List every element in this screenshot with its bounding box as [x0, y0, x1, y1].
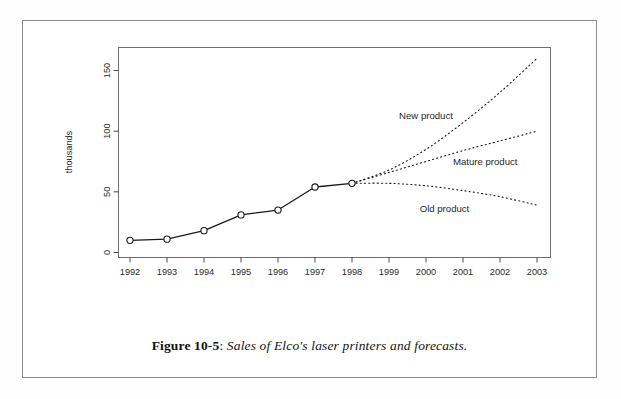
y-axis-tick-labels: 050100150: [102, 63, 112, 255]
x-tick-label: 2000: [416, 267, 436, 277]
x-tick-label: 2001: [453, 267, 473, 277]
x-tick-label: 1994: [194, 267, 214, 277]
data-point-marker: [275, 207, 281, 213]
x-axis-ticks: [130, 258, 537, 263]
y-axis-title: thousands: [64, 130, 74, 173]
data-point-marker: [238, 212, 244, 218]
figure-caption-number: Figure 10-5: [152, 338, 220, 353]
x-axis-tick-labels: 1992199319941995199619971998199920002001…: [120, 267, 547, 277]
data-series-layer: [130, 58, 537, 240]
annotation-new-product: New product: [399, 110, 453, 121]
figure-caption-separator: :: [219, 338, 223, 353]
x-tick-label: 1999: [379, 267, 399, 277]
data-point-marker: [201, 228, 207, 234]
x-tick-label: 1998: [342, 267, 362, 277]
data-point-marker: [164, 236, 170, 242]
x-tick-label: 1995: [231, 267, 251, 277]
annotation-mature-product: Mature product: [453, 156, 518, 167]
figure-caption-text: Sales of Elco's laser printers and forec…: [227, 338, 468, 353]
data-point-markers: [127, 180, 355, 243]
scanned-page: 050100150 199219931994199519961997199819…: [0, 0, 621, 399]
y-tick-label: 50: [102, 187, 112, 197]
annotation-old-product: Old product: [420, 203, 470, 214]
y-tick-label: 0: [102, 250, 112, 255]
data-point-marker: [127, 237, 133, 243]
x-tick-label: 1992: [120, 267, 140, 277]
plot-frame: [119, 48, 551, 258]
y-tick-label: 100: [102, 123, 112, 138]
x-tick-label: 2002: [490, 267, 510, 277]
series-line-old-product: [352, 183, 537, 205]
figure-caption: Figure 10-5: Sales of Elco's laser print…: [22, 338, 597, 354]
x-tick-label: 1997: [305, 267, 325, 277]
y-tick-label: 150: [102, 63, 112, 78]
x-tick-label: 2003: [527, 267, 547, 277]
x-tick-label: 1996: [268, 267, 288, 277]
data-point-marker: [349, 180, 355, 186]
y-axis-ticks: [114, 71, 119, 253]
x-tick-label: 1993: [157, 267, 177, 277]
data-point-marker: [312, 184, 318, 190]
